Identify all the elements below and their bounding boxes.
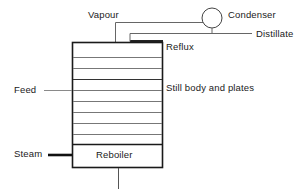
label-vapour: Vapour	[88, 9, 119, 20]
reflux-line	[130, 28, 212, 42]
label-reboiler: Reboiler	[96, 149, 133, 160]
distillation-column-diagram: Vapour Condenser Distillate Reflux Still…	[0, 0, 304, 192]
label-still-body: Still body and plates	[166, 82, 254, 93]
label-reflux: Reflux	[166, 41, 194, 52]
label-steam: Steam	[14, 148, 42, 159]
label-condenser: Condenser	[228, 9, 276, 20]
label-feed: Feed	[14, 84, 36, 95]
label-distillate: Distillate	[256, 28, 293, 39]
condenser-icon	[202, 8, 222, 28]
